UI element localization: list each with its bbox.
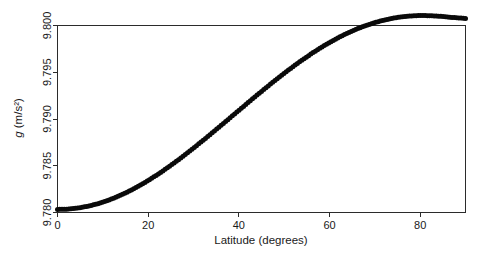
data-series-markers — [55, 13, 468, 212]
x-tick-label: 40 — [233, 219, 245, 231]
chart-canvas: 9.7809.7859.7909.7959.800 020406080 g (m… — [0, 0, 482, 262]
gravity-vs-latitude-figure: 9.7809.7859.7909.7959.800 020406080 g (m… — [0, 0, 482, 262]
y-tick-label: 9.800 — [41, 12, 53, 40]
x-axis-title: Latitude (degrees) — [214, 234, 308, 246]
y-tick-label: 9.790 — [41, 105, 53, 133]
x-axis-ticks: 020406080 — [54, 213, 426, 231]
x-tick-label: 20 — [142, 219, 154, 231]
x-tick-label: 0 — [54, 219, 60, 231]
y-tick-label: 9.785 — [41, 152, 53, 180]
y-axis-title: g (m/s²) — [12, 98, 24, 138]
x-tick-label: 60 — [323, 219, 335, 231]
y-axis-ticks: 9.7809.7859.7909.7959.800 — [41, 12, 58, 227]
plot-frame — [58, 26, 466, 213]
y-tick-label: 9.795 — [41, 58, 53, 86]
x-tick-label: 80 — [414, 219, 426, 231]
svg-text:g (m/s²): g (m/s²) — [12, 98, 24, 138]
data-point — [463, 16, 468, 21]
y-tick-label: 9.780 — [41, 199, 53, 227]
